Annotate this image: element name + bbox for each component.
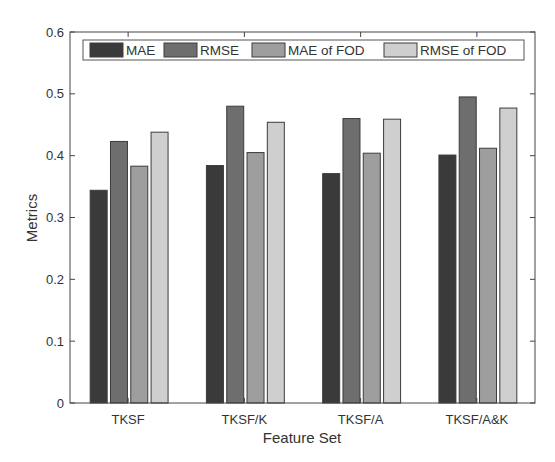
legend-label: RMSE of FOD — [420, 43, 507, 58]
bar-mae-tksf-a — [323, 174, 340, 403]
legend-swatch — [90, 43, 123, 57]
y-tick-label: 0 — [57, 396, 64, 411]
bar-rmse-of-fod-tksf-a — [384, 119, 401, 403]
y-tick-label: 0.5 — [46, 86, 64, 101]
y-tick-label: 0.2 — [46, 272, 64, 287]
y-tick-label: 0.4 — [46, 148, 64, 163]
x-axis-label: Feature Set — [263, 429, 342, 446]
x-tick-label: TKSF — [112, 412, 145, 427]
legend-label: MAE — [126, 43, 155, 58]
bar-rmse-tksf-a — [343, 119, 360, 403]
bar-mae-of-fod-tksf-a — [363, 153, 380, 403]
bar-mae-tksf-a-k — [439, 155, 456, 403]
y-tick-label: 0.6 — [46, 25, 64, 40]
x-tick-label: TKSF/K — [222, 412, 268, 427]
bar-chart: 00.10.20.30.40.50.6 TKSFTKSF/KTKSF/ATKSF… — [0, 0, 555, 462]
bar-rmse-of-fod-tksf — [151, 132, 168, 403]
bar-mae-of-fod-tksf — [131, 166, 148, 403]
bar-rmse-tksf-k — [227, 106, 244, 403]
bar-rmse-tksf — [110, 141, 127, 403]
y-axis-label: Metrics — [23, 194, 40, 242]
legend-swatch — [164, 43, 197, 57]
y-tick-label: 0.1 — [46, 334, 64, 349]
legend-label: RMSE — [200, 43, 239, 58]
y-tick-label: 0.3 — [46, 210, 64, 225]
bar-mae-tksf-k — [206, 166, 223, 403]
x-tick-label: TKSF/A — [338, 412, 384, 427]
bar-mae-of-fod-tksf-a-k — [480, 148, 497, 403]
bars-layer — [90, 97, 517, 403]
legend: MAERMSEMAE of FODRMSE of FOD — [83, 40, 524, 60]
legend-label: MAE of FOD — [288, 43, 365, 58]
bar-rmse-tksf-a-k — [459, 97, 476, 403]
bar-mae-tksf — [90, 190, 107, 403]
x-tick-label: TKSF/A&K — [445, 412, 508, 427]
bar-rmse-of-fod-tksf-k — [267, 122, 284, 403]
legend-swatch — [252, 43, 285, 57]
bar-mae-of-fod-tksf-k — [247, 153, 264, 403]
bar-rmse-of-fod-tksf-a-k — [500, 108, 517, 403]
legend-swatch — [384, 43, 417, 57]
